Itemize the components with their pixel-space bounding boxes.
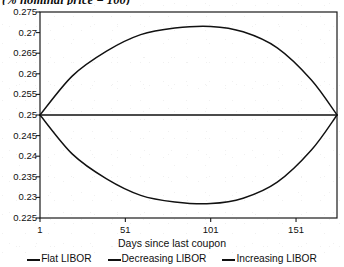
- x-tick-label: 151: [288, 224, 304, 235]
- legend-line-swatch: [27, 259, 40, 261]
- legend-entry: Decreasing LIBOR: [108, 253, 207, 264]
- legend-label: Flat LIBOR: [41, 253, 91, 264]
- legend-line-swatch: [108, 259, 121, 261]
- legend-entry: Increasing LIBOR: [222, 253, 316, 264]
- legend-label: Increasing LIBOR: [236, 253, 316, 264]
- legend-label: Decreasing LIBOR: [122, 253, 207, 264]
- x-tick-label: 1: [37, 224, 42, 235]
- x-axis-title: Days since last coupon: [0, 237, 344, 249]
- chart-figure: (% nominal price = 100) 0.2250.230.2350.…: [0, 0, 344, 267]
- x-axis-tick-labels: 151101151: [0, 0, 344, 267]
- x-tick-label: 51: [120, 224, 131, 235]
- legend-entry: Flat LIBOR: [27, 253, 91, 264]
- x-tick-label: 101: [203, 224, 219, 235]
- chart-legend: Flat LIBORDecreasing LIBORIncreasing LIB…: [0, 251, 344, 265]
- legend-line-swatch: [222, 259, 235, 261]
